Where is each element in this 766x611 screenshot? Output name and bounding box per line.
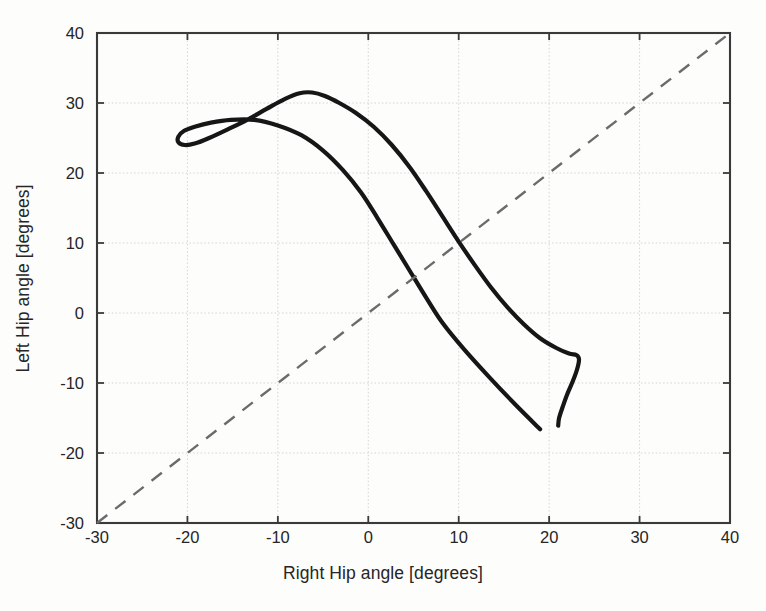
x-tick-label: -30 [85,528,109,547]
series-path-1 [97,33,730,523]
x-tick-label: -10 [266,528,290,547]
x-tick-label: 0 [364,528,373,547]
data-series-group [97,33,730,523]
y-axis-label: Left Hip angle [degrees] [13,184,34,372]
x-axis-label: Right Hip angle [degrees] [0,563,766,584]
y-axis-label-wrapper: Left Hip angle [degrees] [0,0,46,556]
x-tick-label: 40 [721,528,739,547]
x-tick-label: -20 [175,528,199,547]
x-tick-label: 30 [630,528,648,547]
x-tick-label: 20 [540,528,558,547]
chart-figure: 403020100-10-20-30 -30-20-10010203040 Le… [0,0,766,611]
cyclogram-plot [0,0,766,611]
x-tick-label: 10 [450,528,468,547]
series-path-0 [178,92,579,429]
